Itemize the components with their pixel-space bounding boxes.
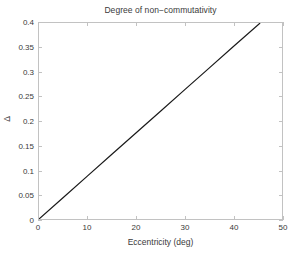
x-tick-mark-top [87,22,88,26]
x-tick-mark-top [283,22,284,26]
y-tick-mark-right [279,22,283,23]
plot-area [38,22,283,220]
x-tick-label: 0 [36,223,40,232]
x-tick-mark-top [136,22,137,26]
x-axis-label: Eccentricity (deg) [38,237,283,247]
y-tick-mark [38,121,42,122]
x-tick-mark-top [234,22,235,26]
y-tick-mark [38,220,42,221]
y-tick-mark-right [279,171,283,172]
y-tick-label: 0.05 [18,191,34,200]
y-tick-mark [38,47,42,48]
x-tick-mark [136,216,137,220]
y-tick-mark [38,96,42,97]
y-tick-label: 0.25 [18,92,34,101]
x-tick-label: 30 [181,223,190,232]
y-tick-label: 0 [30,216,34,225]
y-tick-mark-right [279,47,283,48]
y-axis-label: Δ [2,108,12,130]
y-tick-mark [38,146,42,147]
x-tick-mark [234,216,235,220]
y-tick-label: 0.2 [23,117,34,126]
x-tick-label: 50 [279,223,288,232]
y-tick-mark [38,195,42,196]
figure-canvas: Degree of non−commutativity 01020304050 … [0,0,300,259]
series-line-path [39,23,260,219]
x-tick-label: 10 [83,223,92,232]
x-tick-mark [185,216,186,220]
x-tick-mark [283,216,284,220]
x-tick-mark-top [185,22,186,26]
y-tick-mark-right [279,121,283,122]
y-tick-mark-right [279,195,283,196]
y-tick-label: 0.35 [18,42,34,51]
y-tick-label: 0.4 [23,18,34,27]
y-tick-mark [38,171,42,172]
y-tick-mark-right [279,220,283,221]
data-line-series [39,23,282,219]
y-tick-label: 0.15 [18,141,34,150]
y-tick-mark-right [279,146,283,147]
y-tick-mark-right [279,96,283,97]
y-tick-mark-right [279,72,283,73]
y-tick-mark [38,22,42,23]
y-tick-label: 0.3 [23,67,34,76]
chart-title: Degree of non−commutativity [38,5,283,15]
y-tick-mark [38,72,42,73]
x-tick-label: 20 [132,223,141,232]
x-tick-label: 40 [230,223,239,232]
x-tick-mark [87,216,88,220]
y-tick-label: 0.1 [23,166,34,175]
